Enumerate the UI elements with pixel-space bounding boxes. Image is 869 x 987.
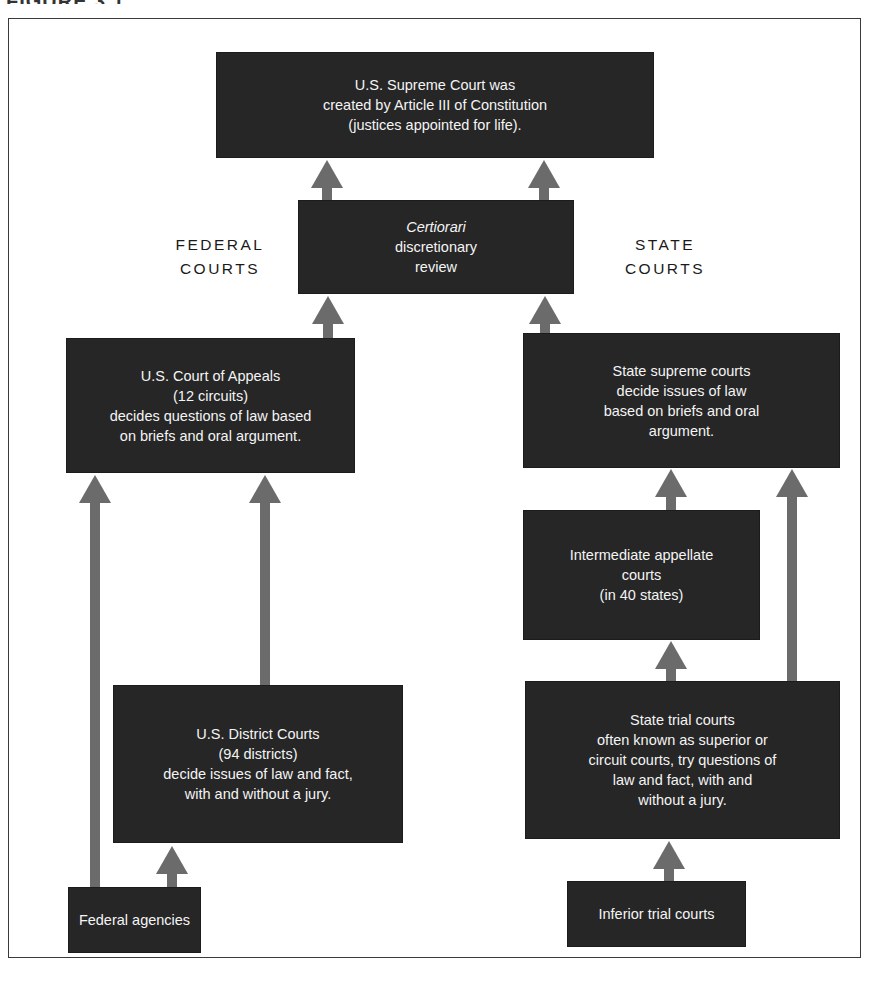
state-supreme-courts-box: State supreme courts decide issues of la… (523, 333, 840, 468)
box-text-line: law and fact, with and (613, 770, 752, 790)
box-text-line: argument. (649, 421, 714, 441)
box-text-line: Intermediate appellate (570, 545, 714, 565)
box-text-line: decides questions of law based (110, 406, 312, 426)
box-text-line: U.S. District Courts (196, 724, 319, 744)
box-text-line: State supreme courts (613, 361, 751, 381)
federal-label-line: COURTS (150, 257, 290, 281)
box-text-line: on briefs and oral argument. (120, 426, 301, 446)
box-text-line: (94 districts) (219, 744, 298, 764)
state-label-line: STATE (600, 233, 730, 257)
box-text-line: (in 40 states) (600, 585, 684, 605)
intermediate-appellate-box: Intermediate appellate courts (in 40 sta… (523, 510, 760, 640)
box-text-line: decide issues of law (617, 381, 747, 401)
box-text-line: Inferior trial courts (598, 904, 714, 924)
box-text-line: discretionary (395, 237, 477, 257)
state-courts-label: STATE COURTS (600, 233, 730, 281)
arrow-up-icon (79, 475, 111, 887)
federal-label-line: FEDERAL (150, 233, 290, 257)
state-label-line: COURTS (600, 257, 730, 281)
box-text-line: Federal agencies (79, 910, 190, 930)
box-text-line: Certiorari (406, 217, 466, 237)
box-text-line: with and without a jury. (185, 784, 331, 804)
arrow-up-icon (655, 469, 687, 510)
court-of-appeals-box: U.S. Court of Appeals (12 circuits) deci… (66, 338, 355, 473)
box-text-line: often known as superior or (597, 730, 768, 750)
federal-agencies-box: Federal agencies (68, 887, 201, 953)
box-text-line: without a jury. (638, 790, 726, 810)
inferior-trial-courts-box: Inferior trial courts (567, 881, 746, 947)
box-text-line: circuit courts, try questions of (589, 750, 777, 770)
arrow-up-icon (249, 475, 281, 685)
box-text-line: review (415, 257, 457, 277)
box-text-line: based on briefs and oral (604, 401, 760, 421)
certiorari-box: Certiorari discretionary review (298, 200, 574, 294)
arrow-up-icon (528, 160, 560, 200)
box-text-line: (justices appointed for life). (348, 115, 521, 135)
federal-courts-label: FEDERAL COURTS (150, 233, 290, 281)
box-text-line: created by Article III of Constitution (323, 95, 547, 115)
box-text-line: U.S. Supreme Court was (355, 75, 515, 95)
box-text-line: decide issues of law and fact, (163, 764, 352, 784)
state-trial-courts-box: State trial courts often known as superi… (525, 681, 840, 839)
arrow-up-icon (156, 846, 188, 887)
figure-heading-fragment: FIGURE 3.1 (6, 0, 246, 4)
box-text-line: (12 circuits) (173, 386, 248, 406)
box-text-line: U.S. Court of Appeals (141, 366, 280, 386)
district-courts-box: U.S. District Courts (94 districts) deci… (113, 685, 403, 843)
supreme-court-box: U.S. Supreme Court was created by Articl… (216, 52, 654, 158)
box-text-line: courts (622, 565, 662, 585)
arrow-up-icon (529, 296, 561, 333)
arrow-up-icon (311, 160, 343, 200)
arrow-up-icon (655, 641, 687, 681)
figure-heading-text: FIGURE 3.1 (6, 0, 125, 4)
arrow-up-icon (653, 841, 685, 881)
arrow-up-icon (312, 296, 344, 338)
arrow-up-icon (776, 469, 808, 681)
box-text-line: State trial courts (630, 710, 735, 730)
